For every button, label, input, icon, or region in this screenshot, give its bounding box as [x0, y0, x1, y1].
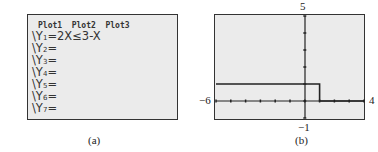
y1-graph-line — [216, 84, 364, 101]
graph-plot — [0, 0, 378, 152]
caption-b: (b) — [295, 134, 308, 146]
xmin-label: −6 — [199, 94, 211, 106]
ymax-label: 5 — [300, 0, 306, 12]
ymin-label: −1 — [298, 121, 310, 133]
xmax-label: 4 — [369, 94, 375, 106]
